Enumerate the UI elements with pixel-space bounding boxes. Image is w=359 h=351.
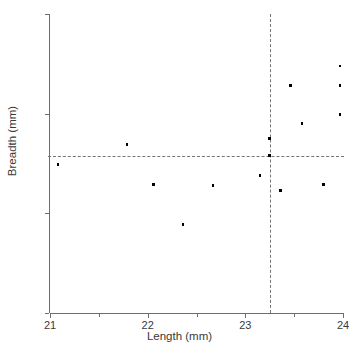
y-tick-18 bbox=[45, 14, 49, 15]
data-point bbox=[301, 122, 304, 125]
y-axis-line bbox=[49, 14, 50, 313]
x-minor-tick bbox=[197, 314, 198, 317]
x-minor-tick bbox=[99, 314, 100, 317]
data-point bbox=[268, 137, 271, 140]
x-axis-title: Length (mm) bbox=[0, 330, 359, 342]
x-tick-24 bbox=[343, 314, 344, 318]
data-point bbox=[182, 223, 185, 226]
vertical-reference-line bbox=[270, 14, 271, 313]
data-point bbox=[212, 184, 215, 187]
data-point bbox=[289, 84, 292, 87]
y-axis-title: Breadth (mm) bbox=[6, 51, 18, 231]
x-tick-22 bbox=[148, 314, 149, 318]
data-point bbox=[152, 183, 155, 186]
scatter-plot-figure: 15161718 21222324 Breadth (mm) Length (m… bbox=[0, 0, 359, 351]
data-point bbox=[339, 113, 342, 116]
data-point bbox=[268, 154, 271, 157]
data-point bbox=[259, 174, 262, 177]
data-point bbox=[279, 189, 282, 192]
plot-area: 15161718 21222324 bbox=[50, 14, 343, 313]
horizontal-reference-line bbox=[48, 156, 344, 157]
y-tick-16 bbox=[45, 213, 49, 214]
data-point bbox=[322, 183, 325, 186]
y-tick-17 bbox=[45, 114, 49, 115]
data-point bbox=[57, 163, 60, 166]
x-tick-23 bbox=[245, 314, 246, 318]
data-point bbox=[126, 143, 129, 146]
y-tick-15 bbox=[45, 313, 49, 314]
x-minor-tick bbox=[294, 314, 295, 317]
data-point bbox=[339, 84, 342, 87]
data-point bbox=[339, 65, 342, 68]
x-tick-21 bbox=[50, 314, 51, 318]
